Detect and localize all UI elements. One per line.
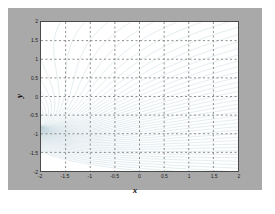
x-tick-label: -1: [88, 174, 92, 179]
x-tick-label: 0: [138, 174, 141, 179]
y-tick-label: 0.5: [26, 75, 38, 80]
x-tick-label: -2: [38, 174, 42, 179]
grid-lines: [41, 22, 238, 171]
contour-level: [41, 107, 44, 127]
x-tick-label: 1.5: [211, 174, 218, 179]
x-tick-label: 1: [188, 174, 191, 179]
y-tick-label: 0: [26, 94, 38, 99]
contour-level: [41, 27, 238, 129]
contour-level: [41, 22, 229, 129]
y-tick-label: 1.5: [26, 37, 38, 42]
plot-axes: [40, 21, 239, 172]
y-tick-label: -1.5: [26, 151, 38, 156]
contour-plot-canvas: [41, 22, 238, 171]
contour-level: [41, 152, 142, 171]
y-tick-label: -0.5: [26, 113, 38, 118]
x-axis-label: x: [8, 185, 262, 195]
contour-level: [41, 144, 238, 158]
y-axis-label: y: [14, 94, 24, 98]
contour-level: [41, 22, 61, 128]
contour-level: [41, 80, 51, 127]
y-tick-label: 1: [26, 56, 38, 61]
x-tick-label: -1.5: [61, 174, 70, 179]
contour-level: [41, 112, 238, 137]
x-tick-label: 2: [238, 174, 241, 179]
y-tick-label: -1: [26, 132, 38, 137]
y-tick-label: 2: [26, 19, 38, 24]
contour-level: [41, 22, 153, 129]
x-tick-label: 0.5: [161, 174, 168, 179]
figure-panel: -2-1.5-1-0.500.511.52 -2-1.5-1-0.500.511…: [8, 8, 262, 190]
x-tick-label: -0.5: [110, 174, 119, 179]
y-tick-label: -2: [26, 170, 38, 175]
